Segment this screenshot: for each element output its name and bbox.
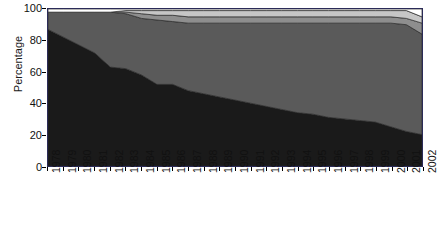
x-axis-tick-mark bbox=[219, 167, 220, 171]
y-axis-tick-label: 100 bbox=[16, 3, 42, 13]
y-axis-tick-label: 0 bbox=[16, 162, 42, 172]
x-axis-tick-label: 1984 bbox=[145, 150, 155, 173]
x-axis-tick-mark bbox=[63, 167, 64, 171]
x-axis-tick-label: 1985 bbox=[161, 150, 171, 173]
x-axis-tick-label: 1997 bbox=[349, 150, 359, 173]
y-axis-tick-mark bbox=[42, 103, 46, 104]
x-axis-tick-mark bbox=[376, 167, 377, 171]
x-axis-tick-mark bbox=[392, 167, 393, 171]
x-axis-tick-mark bbox=[94, 167, 95, 171]
x-axis-tick-label: 1991 bbox=[255, 150, 265, 173]
y-axis-tick-label: 80 bbox=[16, 35, 42, 45]
y-axis-tick-mark bbox=[42, 40, 46, 41]
y-axis-tick-label: 60 bbox=[16, 67, 42, 77]
y-axis-tick-mark bbox=[42, 135, 46, 136]
x-axis-tick-mark bbox=[423, 167, 424, 171]
x-axis-tick-mark bbox=[110, 167, 111, 171]
x-axis-tick-mark bbox=[172, 167, 173, 171]
x-axis-tick-label: 1988 bbox=[208, 150, 218, 173]
y-axis-tick-label: 20 bbox=[16, 130, 42, 140]
plot-area bbox=[47, 8, 423, 167]
y-axis-tick-labels: 020406080100 bbox=[12, 0, 42, 227]
x-axis-tick-label: 2001 bbox=[411, 150, 421, 173]
x-axis-tick-mark bbox=[47, 167, 48, 171]
x-axis: 1978197919801981198219831984198519861987… bbox=[47, 167, 423, 227]
x-axis-tick-mark bbox=[157, 167, 158, 171]
x-axis-tick-mark bbox=[188, 167, 189, 171]
x-axis-tick-mark bbox=[282, 167, 283, 171]
x-axis-tick-label: 1980 bbox=[82, 150, 92, 173]
x-axis-tick-mark bbox=[298, 167, 299, 171]
x-axis-tick-mark bbox=[345, 167, 346, 171]
y-axis-tick-mark bbox=[42, 72, 46, 73]
x-axis-tick-mark bbox=[141, 167, 142, 171]
x-axis-tick-label: 1993 bbox=[286, 150, 296, 173]
x-axis-tick-label: 1999 bbox=[380, 150, 390, 173]
x-axis-tick-label: 1989 bbox=[223, 150, 233, 173]
x-axis-tick-label: 1978 bbox=[51, 150, 61, 173]
x-axis-tick-label: 1982 bbox=[114, 150, 124, 173]
x-axis-tick-label: 1983 bbox=[129, 150, 139, 173]
x-axis-tick-mark bbox=[360, 167, 361, 171]
x-axis-tick-mark bbox=[266, 167, 267, 171]
x-axis-tick-mark bbox=[329, 167, 330, 171]
x-axis-tick-label: 1994 bbox=[302, 150, 312, 173]
x-axis-tick-label: 1995 bbox=[317, 150, 327, 173]
x-axis-tick-mark bbox=[204, 167, 205, 171]
x-axis-tick-label: 1979 bbox=[67, 150, 77, 173]
x-axis-tick-label: 1998 bbox=[364, 150, 374, 173]
x-axis-tick-label: 1992 bbox=[270, 150, 280, 173]
y-axis-tick-label: 40 bbox=[16, 98, 42, 108]
x-axis-tick-label: 2000 bbox=[396, 150, 406, 173]
x-axis-tick-mark bbox=[78, 167, 79, 171]
x-axis-tick-mark bbox=[407, 167, 408, 171]
x-axis-tick-label: 1981 bbox=[98, 150, 108, 173]
y-axis-tick-mark bbox=[42, 167, 46, 168]
x-axis-tick-mark bbox=[251, 167, 252, 171]
x-axis-tick-label: 1986 bbox=[176, 150, 186, 173]
x-axis-tick-label: 1990 bbox=[239, 150, 249, 173]
x-axis-tick-mark bbox=[313, 167, 314, 171]
x-axis-tick-label: 1987 bbox=[192, 150, 202, 173]
x-axis-tick-label: 1996 bbox=[333, 150, 343, 173]
x-axis-tick-mark bbox=[125, 167, 126, 171]
y-axis-tick-mark bbox=[42, 8, 46, 9]
x-axis-tick-label: 2002 bbox=[427, 150, 437, 173]
area-bands bbox=[48, 9, 422, 166]
x-axis-tick-mark bbox=[235, 167, 236, 171]
